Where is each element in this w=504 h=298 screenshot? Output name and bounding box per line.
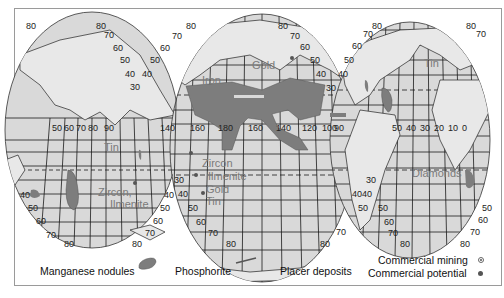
lat-label: 70 <box>104 31 114 40</box>
lat-label: 50 <box>188 204 198 213</box>
lat-label: 30 <box>366 176 376 185</box>
commercial-potential-icon <box>478 271 483 276</box>
lat-label: 80 <box>64 240 74 249</box>
resource-label-tin: Tin <box>104 142 119 153</box>
lat-label: 30 <box>130 83 140 92</box>
legend-placer-deposits: Placer deposits <box>280 266 352 277</box>
lat-label: 50 <box>482 204 492 213</box>
lat-label: 50 <box>378 204 388 213</box>
lat-label: 60 <box>300 43 310 52</box>
lat-label: 70 <box>46 231 56 240</box>
lat-label: 60 <box>196 218 206 227</box>
resource-label-gold: Gold <box>206 184 229 195</box>
lon-label: 160 <box>190 124 205 133</box>
lat-label: 30 <box>174 176 184 185</box>
legend-phosphorite: Phosphorite <box>175 266 231 277</box>
lat-label: 40 <box>164 191 174 200</box>
lon-label: 50 <box>392 124 402 133</box>
legend-commercial-potential: Commercial potential <box>368 268 467 279</box>
lat-label: 80 <box>226 240 236 249</box>
lon-label: 180 <box>218 124 233 133</box>
phosphorite-line-icon <box>234 256 258 266</box>
lon-label: 80 <box>88 124 98 133</box>
lat-label: 80 <box>372 22 382 31</box>
manganese-nodule-swatch-icon <box>136 256 160 272</box>
lon-label: 50 <box>52 124 62 133</box>
lat-label: 40 <box>142 70 152 79</box>
lon-label: 40 <box>406 124 416 133</box>
lat-label: 80 <box>186 22 196 31</box>
lat-label: 40 <box>316 70 326 79</box>
lat-label: 80 <box>132 240 142 249</box>
lat-label: 60 <box>113 44 123 53</box>
lat-label: 60 <box>352 42 362 51</box>
lat-label: 40 <box>352 190 362 199</box>
resource-label-zircon: Zircon <box>202 158 233 169</box>
resource-label-tin: Tin <box>424 58 439 69</box>
lon-label: 70 <box>76 124 86 133</box>
lat-label: 70 <box>363 30 373 39</box>
lon-label: 90 <box>104 124 114 133</box>
lat-label: 50 <box>120 56 130 65</box>
lat-label: 70 <box>172 32 182 41</box>
lat-label: 60 <box>478 216 488 225</box>
lat-label: 40 <box>338 70 348 79</box>
lat-label: 70 <box>470 228 480 237</box>
lat-label: 30 <box>326 84 336 93</box>
lon-label: 120 <box>302 124 317 133</box>
lat-label: 60 <box>153 217 163 226</box>
atlantic-ocean-lobe <box>330 22 500 258</box>
lat-label: 50 <box>160 204 170 213</box>
resource-label-diamonds: Diamonds <box>412 168 462 179</box>
lat-label: 80 <box>460 240 470 249</box>
lon-label: 30 <box>420 124 430 133</box>
resource-label-zircon: Zircon, <box>98 187 132 198</box>
lon-label: 60 <box>64 124 74 133</box>
resource-label-tin: Tin <box>206 196 221 207</box>
lat-label: 40 <box>20 191 30 200</box>
lat-label: 80 <box>26 22 36 31</box>
lon-label: 10 <box>448 124 458 133</box>
lon-label: 160 <box>248 124 263 133</box>
commercial-mining-icon <box>478 257 484 263</box>
lat-label: 40 <box>362 190 372 199</box>
resource-label-gold: Gold <box>252 60 275 71</box>
lat-label: 40 <box>125 70 135 79</box>
lon-label: 90 <box>334 124 344 133</box>
lat-label: 70 <box>476 30 486 39</box>
lat-label: 70 <box>290 32 300 41</box>
legend-commercial-mining: Commercial mining <box>378 255 468 266</box>
lat-label: 50 <box>310 56 320 65</box>
lat-label: 70 <box>388 229 398 238</box>
resource-label-ilmenite: Ilmenite <box>208 171 247 182</box>
lat-label: 70 <box>145 229 155 238</box>
lat-label: 40 <box>178 190 188 199</box>
lat-label: 70 <box>208 229 218 238</box>
resource-label-iron: Iron <box>202 75 221 86</box>
legend-manganese-nodules: Manganese nodules <box>40 266 135 277</box>
lon-label: 140 <box>160 124 175 133</box>
lat-label: 70 <box>336 228 346 237</box>
lon-label: 0 <box>462 124 467 133</box>
lon-label: 140 <box>276 124 291 133</box>
lon-label: 20 <box>434 124 444 133</box>
lat-label: 60 <box>160 44 170 53</box>
lat-label: 50 <box>344 56 354 65</box>
lat-label: 80 <box>400 240 410 249</box>
resource-label-ilmenite: Ilmenite <box>110 199 149 210</box>
lat-label: 80 <box>466 22 476 31</box>
lat-label: 60 <box>384 218 394 227</box>
lat-label: 80 <box>278 22 288 31</box>
lat-label: 60 <box>36 217 46 226</box>
commercial-potential-dot <box>133 181 137 185</box>
lat-label: 50 <box>28 204 38 213</box>
lat-label: 80 <box>320 240 330 249</box>
lat-label: 50 <box>150 56 160 65</box>
lat-label: 50 <box>358 204 368 213</box>
